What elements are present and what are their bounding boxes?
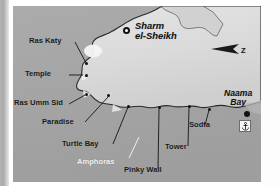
town-label-line2: el-Sheikh — [135, 31, 177, 41]
site-label-pinky-wall: Pinky Wall — [124, 166, 162, 174]
town-label-sharm-el-sheikh: Sharm el-Sheikh — [135, 21, 177, 41]
bay-label-line2: Bay — [224, 98, 252, 107]
town-marker-sharm-el-sheikh[interactable] — [123, 27, 130, 34]
site-dot-sodfa[interactable] — [208, 108, 211, 111]
map-screenshot: Ras Katy Temple Ras Umm Sid Paradise Tur… — [0, 0, 279, 186]
land-highlight-patch — [84, 45, 102, 58]
anchor-icon[interactable] — [239, 120, 251, 132]
site-label-amphoras: Amphoras — [77, 158, 115, 166]
site-label-paradise: Paradise — [42, 118, 74, 126]
map-plate: Ras Katy Temple Ras Umm Sid Paradise Tur… — [13, 6, 261, 182]
page-gutter-left — [0, 0, 9, 186]
site-label-sodfa: Sodfa — [189, 121, 210, 129]
site-label-temple: Temple — [25, 70, 51, 78]
site-label-ras-umm-sid: Ras Umm Sid — [14, 99, 63, 107]
site-label-turtle-bay: Turtle Bay — [62, 140, 99, 148]
north-arrow-label: Z — [241, 47, 246, 55]
anchor-glyph — [241, 122, 250, 131]
page-gutter-right — [261, 0, 279, 186]
site-dot-tower[interactable] — [188, 105, 191, 108]
site-dot-temple[interactable] — [85, 74, 88, 77]
site-label-ras-katy: Ras Katy — [29, 37, 62, 45]
site-label-tower: Tower — [165, 143, 187, 151]
bay-label-naama-bay: Naama Bay — [224, 89, 252, 107]
